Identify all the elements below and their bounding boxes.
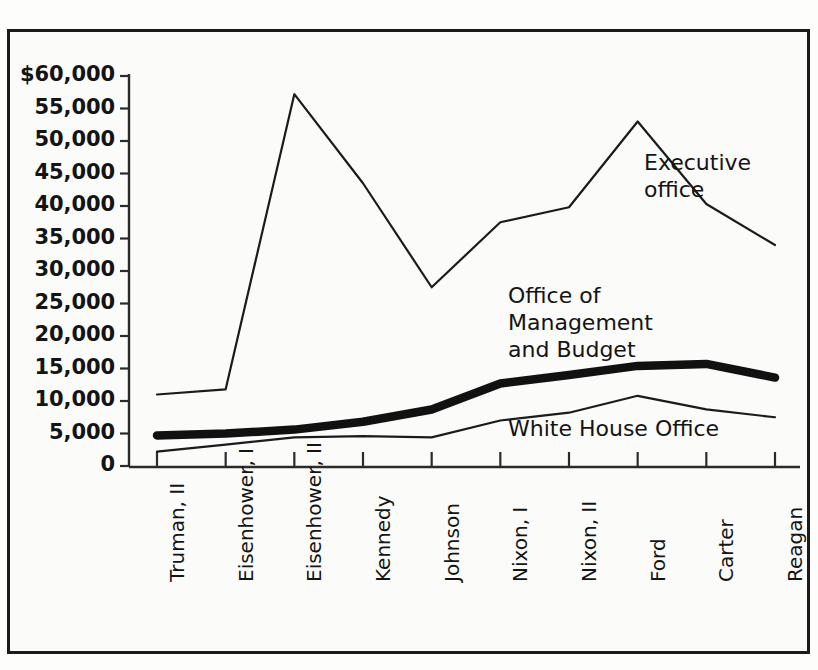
x-axis-tick-label: Kennedy bbox=[371, 495, 395, 582]
y-axis-tick-label: 25,000 bbox=[35, 290, 115, 314]
y-axis-tick-label: 30,000 bbox=[35, 257, 115, 281]
x-axis-tick-label: Ford bbox=[646, 538, 670, 582]
x-axis-tick-label: Nixon, II bbox=[577, 501, 601, 582]
y-axis-tick-label: $60,000 bbox=[20, 62, 115, 86]
line-chart-plot bbox=[0, 0, 818, 670]
y-axis-tick-label: 50,000 bbox=[35, 127, 115, 151]
x-axis-tick-label: Nixon, I bbox=[508, 507, 532, 582]
y-axis-tick-label: 40,000 bbox=[35, 192, 115, 216]
x-axis-tick-label: Eisenhower, II bbox=[302, 442, 326, 582]
y-axis-tick-label: 0 bbox=[100, 452, 115, 476]
x-axis-tick-label: Carter bbox=[714, 519, 738, 582]
chart-series-lines bbox=[157, 94, 775, 452]
y-axis-tick-label: 35,000 bbox=[35, 225, 115, 249]
chart-figure: $60,00055,00050,00045,00040,00035,00030,… bbox=[0, 0, 818, 670]
series-annotation-office-of-management-and-budget: Office of Management and Budget bbox=[508, 283, 653, 363]
series-annotation-white-house-office: White House Office bbox=[508, 416, 719, 443]
series-line-executive-office bbox=[157, 94, 775, 394]
y-axis-tick-label: 15,000 bbox=[35, 355, 115, 379]
y-axis-tick-label: 55,000 bbox=[35, 95, 115, 119]
x-axis-tick-label: Reagan bbox=[783, 507, 807, 582]
y-axis-ticks bbox=[120, 76, 129, 466]
series-annotation-executive-office: Executive office bbox=[644, 150, 751, 204]
y-axis-tick-label: 45,000 bbox=[35, 160, 115, 184]
x-axis-tick-label: Truman, II bbox=[165, 483, 189, 582]
y-axis-tick-label: 5,000 bbox=[49, 420, 115, 444]
y-axis-tick-label: 20,000 bbox=[35, 322, 115, 346]
x-axis-tick-label: Johnson bbox=[440, 503, 464, 582]
y-axis-tick-label: 10,000 bbox=[35, 387, 115, 411]
x-axis-tick-label: Eisenhower, I bbox=[234, 448, 258, 582]
